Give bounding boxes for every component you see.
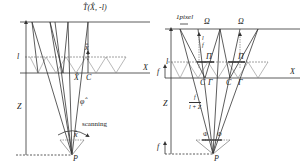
- pixel-label: 1pixel: [176, 14, 193, 21]
- pi-left-label: Π: [206, 53, 212, 61]
- frac-num: f: [194, 94, 196, 100]
- frac-den: l + Z: [189, 102, 201, 110]
- diagram-canvas: [0, 0, 304, 167]
- l-label-right: l: [166, 58, 168, 66]
- left-panel: [16, 22, 150, 155]
- l-over-f-num: l: [202, 35, 204, 41]
- c-right-label: C: [226, 79, 231, 87]
- lower-x-hat-label: x̂: [74, 131, 78, 139]
- p-label-right: P: [214, 155, 219, 163]
- gamma-right-label: Γ: [238, 79, 243, 87]
- x-axis-label-right: X: [290, 68, 295, 76]
- c-left-label: C: [200, 79, 205, 87]
- x-axis-label: X: [143, 64, 148, 72]
- c-label: C: [86, 74, 91, 82]
- x-hat-top-label: x̂: [85, 44, 89, 52]
- x-hat-bottom-label: X̂: [74, 74, 79, 82]
- p-label: P: [73, 155, 78, 163]
- omega-right-label: Ω: [238, 18, 244, 26]
- t-hat-label: T̂(X̂, -l): [83, 4, 107, 12]
- phi-hat-label: φ̂: [80, 98, 84, 106]
- l-label: l: [17, 53, 19, 61]
- scanning-label: scanning: [82, 121, 107, 128]
- f-upper-label: f: [157, 68, 159, 76]
- phi-right-label: Φ: [217, 131, 222, 137]
- gamma-left-label: Γ: [208, 79, 213, 87]
- right-panel: [165, 24, 300, 154]
- omega-left-label: Ω: [204, 18, 210, 26]
- phi-left-label: Φ: [203, 131, 208, 137]
- f-lower-label: f: [157, 143, 159, 151]
- pi-right-label: Π: [238, 53, 244, 61]
- z-label-right: Z: [163, 100, 167, 108]
- l-over-f-den: f: [202, 42, 204, 48]
- z-label: Z: [17, 103, 21, 111]
